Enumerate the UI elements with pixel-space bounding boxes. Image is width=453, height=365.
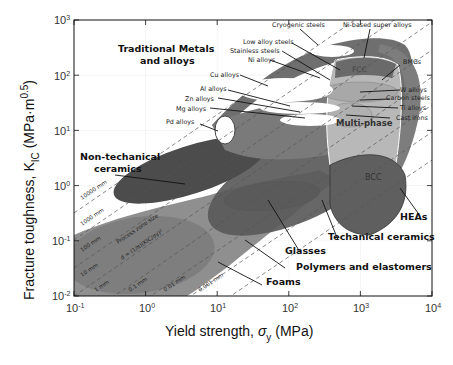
label-fcc: FCC: [352, 65, 367, 74]
label-nontech-ceramics-1: Non-techanical: [80, 151, 160, 162]
cryogenic-ellipse: [310, 45, 354, 57]
label-zn-alloys: Zn alloys: [185, 95, 215, 103]
label-cryogenic-steels: Cryogenic steels: [272, 21, 326, 29]
y-tick-0: 10-2: [52, 290, 71, 302]
label-traditional-metals-2: and alloys: [140, 55, 195, 66]
pd-ellipse: [215, 116, 235, 144]
y-tick-1: 10-1: [52, 235, 71, 247]
label-low-alloy-steels: Low alloy steels: [243, 38, 294, 46]
y-tick-5: 103: [54, 14, 70, 26]
ashby-chart: 10000 mm 1000 mm 100 mm 10 mm 1 mm 0.1 m…: [0, 0, 453, 365]
label-mg-alloys: Mg alloys: [176, 105, 207, 113]
label-ni-alloys: Ni alloys: [248, 56, 276, 64]
y-tick-labels: 10-2 10-1 100 101 102 103: [52, 14, 71, 302]
label-heas: HEAs: [400, 211, 428, 222]
x-tick-labels: 10-1 100 101 102 103 104: [66, 302, 441, 314]
label-nontech-ceramics-2: ceramics: [94, 163, 142, 174]
x-axis-title: Yield strength, σy (MPa): [165, 323, 313, 343]
y-tick-4: 102: [54, 70, 70, 82]
label-carbon-steels: Carbon steels: [386, 94, 431, 102]
x-tick-3: 102: [282, 302, 298, 314]
y-axis-title: Fracture toughness, KIC (MPa·m0.5): [19, 80, 41, 300]
label-pd-alloys: Pd alloys: [166, 118, 195, 126]
label-traditional-metals-1: Traditional Metals: [118, 43, 215, 54]
y-tick-3: 101: [54, 125, 70, 137]
cu-ellipse: [237, 78, 333, 102]
label-bcc: BCC: [365, 173, 382, 182]
label-ti-alloys: Ti alloys: [399, 104, 427, 112]
y-tick-2: 100: [54, 180, 70, 192]
label-multi-phase: Multi-phase: [336, 118, 393, 128]
label-glasses: Glasses: [285, 245, 326, 256]
label-w-alloys: W alloys: [400, 86, 428, 94]
label-stainless-steels: Stainless steels: [230, 47, 280, 55]
label-al-alloys: Al alloys: [200, 85, 227, 93]
label-foams: Foams: [266, 276, 301, 287]
label-tech-ceramics: Techanical ceramics: [328, 231, 435, 242]
label-cu-alloys: Cu alloys: [210, 71, 240, 79]
label-polymers: Polymers and elastomers: [296, 261, 432, 272]
x-tick-5: 104: [425, 302, 441, 314]
label-cast-irons: Cast irons: [396, 114, 428, 122]
label-bmgs: BMGs: [403, 58, 422, 66]
x-tick-4: 103: [353, 302, 369, 314]
x-tick-0: 10-1: [66, 302, 85, 314]
x-tick-1: 100: [139, 302, 155, 314]
x-tick-2: 101: [210, 302, 226, 314]
label-ni-based-super-alloys: Ni-based super alloys: [343, 21, 412, 29]
